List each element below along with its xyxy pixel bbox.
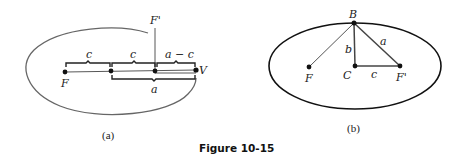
label-b-segment: b	[345, 43, 352, 56]
label-c-left: c	[86, 48, 92, 61]
label-a-segment: a	[380, 35, 387, 48]
label-c-point: C	[343, 69, 352, 82]
brace-a-bottom	[112, 75, 195, 81]
panel-a-label: (a)	[102, 129, 115, 142]
point-f-prime-b	[398, 64, 403, 69]
label-f-b: F	[304, 72, 313, 85]
point-f-a	[63, 70, 68, 75]
label-b-point: B	[348, 8, 357, 21]
figure-10-15: c c a − c a F F' V (a) B b a c C F F' (b…	[0, 0, 460, 161]
label-f-prime-a: F'	[149, 14, 161, 27]
axis-line-a	[65, 70, 196, 72]
panel-b-label: (b)	[347, 122, 360, 135]
panel-b: B b a c C F F' (b)	[269, 8, 441, 135]
label-c-middle: c	[130, 48, 136, 61]
segment-bf-prime	[354, 23, 400, 66]
figure-caption: Figure 10-15	[199, 142, 274, 154]
brace-c-left	[66, 61, 110, 67]
label-v-a: V	[199, 64, 208, 77]
point-f-b	[307, 65, 312, 70]
segment-bc	[354, 23, 355, 66]
point-v-a	[193, 67, 198, 72]
point-c	[353, 64, 358, 69]
brace-c-middle	[112, 61, 155, 67]
panel-a: c c a − c a F F' V (a)	[26, 14, 208, 142]
point-center-a	[109, 69, 114, 74]
point-b	[352, 21, 357, 26]
point-f-prime-a	[153, 69, 158, 74]
label-a-bottom: a	[151, 83, 158, 96]
label-a-minus-c: a − c	[165, 48, 194, 61]
brace-a-minus-c	[157, 61, 195, 67]
label-f-a: F	[60, 77, 69, 90]
label-c-segment: c	[371, 68, 377, 81]
label-f-prime-b: F'	[395, 71, 407, 84]
